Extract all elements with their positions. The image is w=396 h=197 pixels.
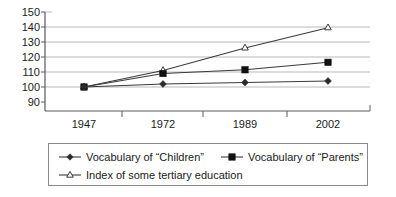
datapoint-parents-1972 <box>160 70 166 76</box>
y-axis-label-90: 90 <box>28 96 40 108</box>
x-axis-label-1989: 1989 <box>233 118 257 130</box>
legend-item-vocabulary-children[interactable]: Vocabulary of “Children” <box>59 151 204 163</box>
x-axis-label-1947: 1947 <box>72 118 96 130</box>
y-axis-labels: 150 140 130 120 110 100 90 <box>22 6 40 108</box>
y-axis-label-130: 130 <box>22 36 40 48</box>
y-axis <box>41 12 45 111</box>
square-marker-icon <box>229 154 235 160</box>
series-children-line <box>84 81 328 87</box>
datapoint-parents-1989 <box>242 67 248 73</box>
x-axis-labels: 1947 1972 1989 2002 <box>72 118 340 130</box>
y-axis-label-110: 110 <box>22 66 40 78</box>
diamond-marker-icon <box>67 154 73 160</box>
chart-svg: 150 140 130 120 110 100 90 1947 1972 198… <box>0 0 396 197</box>
y-axis-label-100: 100 <box>22 81 40 93</box>
x-axis-label-2002: 2002 <box>316 118 340 130</box>
y-axis-label-120: 120 <box>22 51 40 63</box>
gridlines <box>45 12 370 87</box>
x-axis-label-1972: 1972 <box>151 118 175 130</box>
legend-item-tertiary-education[interactable]: Index of some tertiary education <box>59 169 243 181</box>
triangle-marker-icon <box>67 171 74 177</box>
datapoint-children-2002 <box>325 78 332 85</box>
datapoint-parents-2002 <box>325 59 331 65</box>
line-chart: 150 140 130 120 110 100 90 1947 1972 198… <box>0 0 396 197</box>
legend-label-children: Vocabulary of “Children” <box>86 151 204 163</box>
x-axis <box>45 105 370 117</box>
legend-label-tertiary: Index of some tertiary education <box>86 169 243 181</box>
y-axis-label-140: 140 <box>22 21 40 33</box>
legend-label-parents: Vocabulary of “Parents” <box>248 151 363 163</box>
chart-legend: Vocabulary of “Children” Vocabulary of “… <box>49 144 368 186</box>
legend-item-vocabulary-parents[interactable]: Vocabulary of “Parents” <box>221 151 363 163</box>
datapoint-children-1972 <box>160 81 167 88</box>
datapoint-children-1989 <box>242 79 249 86</box>
y-axis-label-150: 150 <box>22 6 40 18</box>
